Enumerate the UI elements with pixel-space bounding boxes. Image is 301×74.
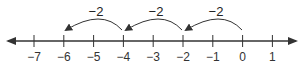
jump-label-3: −2	[89, 4, 104, 19]
jump-label-1: −2	[209, 4, 224, 19]
tick-label: −1	[206, 50, 220, 64]
tick-label: −2	[176, 50, 190, 64]
jump-arc-2	[126, 19, 182, 30]
jump-arc-3	[66, 19, 122, 30]
left-arrow-icon	[6, 37, 16, 45]
right-arrow-icon	[288, 37, 298, 45]
tick-label: −5	[87, 50, 101, 64]
tick-label: 1	[269, 50, 276, 64]
tick-label: −4	[117, 50, 131, 64]
jump-label-2: −2	[149, 4, 164, 19]
tick-label: −3	[146, 50, 160, 64]
tick-label: −6	[57, 50, 71, 64]
tick-marks: −7−6−5−4−3−2−101	[27, 35, 276, 64]
number-line-diagram: −7−6−5−4−3−2−101 −2 −2 −2	[0, 0, 301, 74]
tick-label: −7	[27, 50, 41, 64]
tick-label: 0	[239, 50, 246, 64]
jump-arc-1	[186, 19, 242, 30]
